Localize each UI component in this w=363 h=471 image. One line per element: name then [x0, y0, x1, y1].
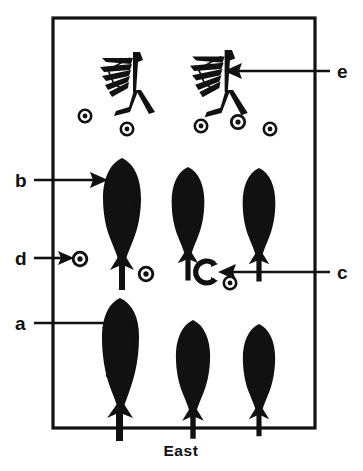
- callout-e-label: e: [337, 61, 348, 82]
- orientation-caption: East: [163, 442, 198, 459]
- callout-b-label: b: [15, 170, 27, 191]
- callout-a-label: a: [15, 313, 26, 334]
- figure-canvas: e b d c a East: [0, 0, 363, 471]
- artifact-plan-figure: e b d c a East: [0, 0, 363, 471]
- callout-c-label: c: [337, 262, 348, 283]
- callout-d-label: d: [15, 248, 27, 269]
